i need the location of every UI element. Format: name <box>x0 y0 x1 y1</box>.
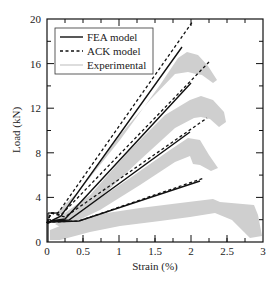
y-tick-label: 0 <box>36 236 42 248</box>
legend: FEA model ACK model Experimental <box>55 28 153 74</box>
y-tick-label: 8 <box>36 147 42 159</box>
legend-label-experimental: Experimental <box>87 59 146 71</box>
y-tick-label: 20 <box>30 13 42 25</box>
y-tick-label: 12 <box>30 102 41 114</box>
x-axis-title: Strain (%) <box>132 260 178 273</box>
x-tick-label: 2 <box>188 245 194 257</box>
experimental-bands <box>50 52 262 240</box>
x-tick-labels: 0 0.5 1 1.5 2 2.5 3 <box>44 245 266 257</box>
legend-label-fea: FEA model <box>87 31 137 43</box>
y-tick-label: 16 <box>30 58 42 70</box>
x-tick-label: 2.5 <box>220 245 234 257</box>
load-strain-chart: 0 0.5 1 1.5 2 2.5 3 0 4 8 12 16 20 Strai… <box>0 0 279 283</box>
x-tick-label: 0.5 <box>76 245 90 257</box>
x-tick-label: 3 <box>260 245 266 257</box>
y-tick-labels: 0 4 8 12 16 20 <box>30 13 42 248</box>
legend-label-ack: ACK model <box>87 45 140 57</box>
y-axis-title: Load (kN) <box>10 107 23 153</box>
x-tick-label: 1 <box>116 245 122 257</box>
x-tick-label: 1.5 <box>148 245 162 257</box>
x-tick-label: 0 <box>44 245 50 257</box>
y-tick-label: 4 <box>36 191 42 203</box>
